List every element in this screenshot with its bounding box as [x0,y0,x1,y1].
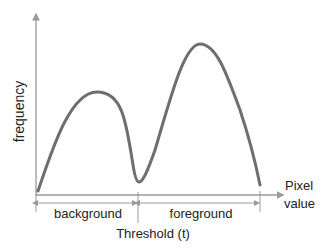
foreground-label: foreground [160,206,242,221]
x-axis-label-line1: Pixel [285,178,313,193]
x-axis-label-line2: value [284,196,315,211]
histogram-curve [38,44,260,191]
background-label: background [45,206,131,221]
threshold-label: Threshold (t) [108,226,198,241]
y-axis-label: frequency [12,77,27,147]
